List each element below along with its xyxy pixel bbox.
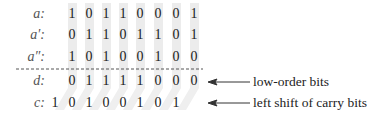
bit: 0 — [134, 6, 146, 22]
bit: 1 — [152, 27, 164, 43]
bit: 0 — [117, 49, 129, 65]
bit: 0 — [134, 49, 146, 65]
row-label-a-prime: a′: — [5, 27, 45, 43]
bit: 0 — [188, 73, 200, 89]
annotation-low-order-bits: low-order bits — [253, 74, 329, 90]
bit: 1 — [100, 49, 112, 65]
row-label-a: a: — [5, 6, 45, 22]
bit: 1 — [134, 95, 146, 111]
bit: 1 — [117, 73, 129, 89]
bit: 1 — [66, 6, 78, 22]
bit: 0 — [152, 95, 164, 111]
bit: 1 — [152, 49, 164, 65]
bit: 0 — [188, 49, 200, 65]
bit: 1 — [100, 6, 112, 22]
bit: 0 — [170, 6, 182, 22]
bit: 1 — [134, 27, 146, 43]
bit: 0 — [152, 73, 164, 89]
bit: 1 — [100, 73, 112, 89]
bit: 1 — [188, 27, 200, 43]
bit: 0 — [83, 49, 95, 65]
row-label-c: c: — [5, 95, 45, 111]
bit: 1 — [66, 49, 78, 65]
arrow-carry-icon — [208, 100, 250, 106]
bit: 0 — [170, 73, 182, 89]
bit: 0 — [66, 95, 78, 111]
bit: 0 — [152, 6, 164, 22]
row-label-d: d: — [5, 73, 45, 89]
bit: 1 — [83, 27, 95, 43]
bit: 1 — [100, 27, 112, 43]
bit: 1 — [117, 6, 129, 22]
bit: 0 — [170, 49, 182, 65]
bit: 1 — [83, 73, 95, 89]
bit: 0 — [66, 27, 78, 43]
bit: 0 — [100, 95, 112, 111]
row-label-a-double-prime: a″: — [5, 49, 45, 65]
bit: 0 — [117, 27, 129, 43]
bit: 0 — [83, 6, 95, 22]
annotation-carry-shift: left shift of carry bits — [253, 95, 367, 111]
bit: 0 — [66, 73, 78, 89]
bit: 1 — [134, 73, 146, 89]
arrow-low-order-icon — [208, 79, 250, 85]
bit: 1 — [170, 95, 182, 111]
bit: 1 — [49, 95, 61, 111]
bit: 1 — [188, 6, 200, 22]
bit: 0 — [117, 95, 129, 111]
bit: 1 — [83, 95, 95, 111]
bit: 0 — [170, 27, 182, 43]
